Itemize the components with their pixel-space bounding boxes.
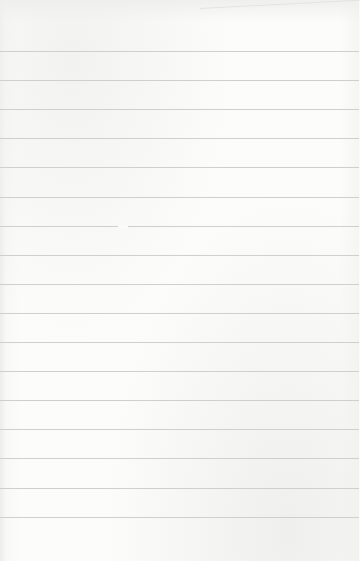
ruled-line bbox=[0, 284, 359, 285]
ruled-line bbox=[0, 138, 359, 139]
ruled-line bbox=[0, 313, 359, 314]
line-gap bbox=[118, 225, 128, 228]
ruled-line bbox=[0, 429, 359, 430]
ruled-line bbox=[0, 255, 359, 256]
ruled-line bbox=[0, 458, 359, 459]
ruled-line bbox=[0, 342, 359, 343]
ruled-line bbox=[0, 109, 359, 110]
ruled-line bbox=[0, 167, 359, 168]
ruled-line bbox=[0, 488, 359, 489]
ruled-line bbox=[0, 80, 359, 81]
ruled-line bbox=[0, 400, 359, 401]
ruled-line bbox=[0, 517, 359, 518]
ruled-line bbox=[0, 197, 359, 198]
ruled-line bbox=[0, 371, 359, 372]
ruled-line bbox=[0, 226, 359, 227]
ruled-line bbox=[0, 51, 359, 52]
